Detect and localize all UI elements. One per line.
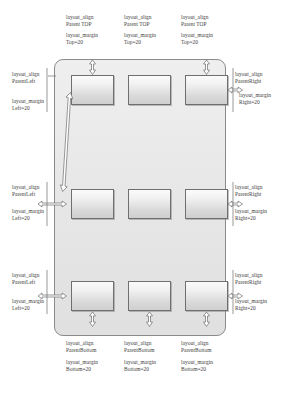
top-margin-label-3: layout_margin Top=20 [181, 32, 213, 45]
right-margin-label-2: layout_margin Right=20 [235, 208, 267, 221]
box-middle-left[interactable] [71, 189, 114, 219]
top-align-label-1: layout_align Parent TOP [66, 14, 94, 27]
right-align-label-3: layout_align ParentRight [235, 272, 263, 285]
top-align-label-2: layout_align Parent TOP [124, 14, 152, 27]
diagram-canvas: layout_align Parent TOP layout_margin To… [0, 0, 293, 399]
bottom-margin-label-3: layout_margin Bottom=20 [181, 359, 213, 372]
box-top-right[interactable] [185, 75, 228, 105]
right-margin-label-3: layout_margin Right=20 [235, 298, 267, 311]
left-margin-label-3: layout_margin Left=20 [12, 298, 44, 311]
bottom-margin-label-2: layout_margin Bottom=20 [124, 359, 156, 372]
arrow-right-margin-2 [228, 201, 243, 207]
left-align-label-2: layout_align ParentLeft [12, 184, 40, 197]
top-align-label-3: layout_align Parent TOP [181, 14, 209, 27]
right-align-label-2: layout_align ParentRight [235, 184, 263, 197]
box-bottom-center[interactable] [128, 281, 171, 311]
bottom-align-label-1: layout_align ParentBottom [66, 340, 97, 353]
box-top-center[interactable] [128, 75, 171, 105]
box-middle-center[interactable] [128, 189, 171, 219]
top-margin-label-2: layout_margin Top=20 [124, 32, 156, 45]
top-margin-label-1: layout_margin Top=20 [66, 32, 98, 45]
bottom-align-label-3: layout_align ParentBottom [181, 340, 212, 353]
box-middle-right[interactable] [185, 189, 228, 219]
box-bottom-left[interactable] [71, 281, 114, 311]
left-align-label-3: layout_align ParentLeft [12, 272, 40, 285]
box-top-left[interactable] [71, 75, 114, 105]
right-margin-label-1: layout_margin Right=20 [239, 92, 271, 105]
box-bottom-right[interactable] [185, 281, 228, 311]
left-margin-label-1: layout_margin Left=20 [12, 98, 44, 111]
right-align-label-1: layout_align ParentRight [235, 71, 263, 84]
left-align-label-1: layout_align ParentLeft [12, 71, 40, 84]
bottom-align-label-2: layout_align ParentBottom [124, 340, 155, 353]
left-margin-label-2: layout_margin Left=20 [12, 208, 44, 221]
bottom-margin-label-1: layout_margin Bottom=20 [66, 359, 98, 372]
